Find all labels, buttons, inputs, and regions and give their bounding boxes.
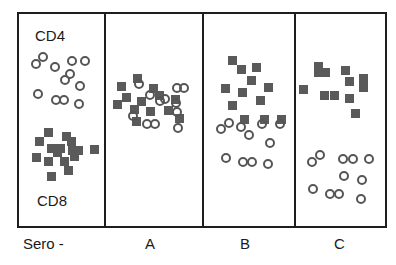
- cd8-cell-square-icon: [47, 172, 56, 181]
- cd8-cell-square-icon: [53, 148, 62, 157]
- cd8-cell-square-icon: [60, 157, 69, 166]
- cd4-cell-circle-icon: [357, 175, 367, 185]
- cd8-cell-square-icon: [264, 83, 273, 92]
- cd4-cell-circle-icon: [265, 138, 275, 148]
- cd4-cell-circle-icon: [308, 184, 318, 194]
- cd8-cell-square-icon: [351, 109, 360, 118]
- cd4-cell-circle-icon: [221, 153, 231, 163]
- cd4-cell-circle-icon: [356, 194, 366, 204]
- cd4-cell-circle-icon: [275, 119, 285, 129]
- cd4-cell-circle-icon: [38, 52, 48, 62]
- cd4-cell-circle-icon: [172, 107, 182, 117]
- cd8-cell-square-icon: [32, 153, 41, 162]
- cd8-cell-square-icon: [345, 94, 354, 103]
- cd4-cell-circle-icon: [65, 69, 75, 79]
- cd8-cell-square-icon: [330, 91, 339, 100]
- cd8-cell-square-icon: [237, 65, 246, 74]
- cd8-cell-square-icon: [146, 107, 155, 116]
- cd8-cell-square-icon: [117, 82, 126, 91]
- cd4-cell-circle-icon: [160, 94, 170, 104]
- cd4-cell-circle-icon: [145, 90, 155, 100]
- cd8-cell-square-icon: [221, 84, 230, 93]
- cd4-cell-circle-icon: [80, 56, 90, 66]
- cell-markers: [0, 0, 396, 265]
- column-label-sero-neg: Sero -: [23, 236, 64, 251]
- cd8-cell-square-icon: [228, 56, 237, 65]
- cd4-cell-circle-icon: [173, 123, 183, 133]
- cd8-cell-square-icon: [341, 66, 350, 75]
- cd4-cell-circle-icon: [364, 154, 374, 164]
- cd4-cell-circle-icon: [179, 83, 189, 93]
- column-label-a: A: [145, 236, 155, 251]
- cd4-cell-circle-icon: [50, 62, 60, 72]
- cd8-cell-square-icon: [359, 74, 368, 83]
- cd8-cell-square-icon: [90, 145, 99, 154]
- cd8-cell-square-icon: [299, 85, 308, 94]
- cd8-cell-square-icon: [67, 137, 76, 146]
- cd8-cell-square-icon: [113, 100, 122, 109]
- cd4-cell-circle-icon: [247, 157, 257, 167]
- cd4-cell-circle-icon: [334, 189, 344, 199]
- cd4-cell-circle-icon: [59, 95, 69, 105]
- cd8-cell-square-icon: [35, 137, 44, 146]
- cd8-cell-square-icon: [256, 96, 265, 105]
- cd4-cell-circle-icon: [150, 119, 160, 129]
- cd8-cell-square-icon: [321, 68, 330, 77]
- cd4-cell-circle-icon: [74, 99, 84, 109]
- cd8-cell-square-icon: [252, 63, 261, 72]
- cd4-cell-circle-icon: [134, 79, 144, 89]
- cd4-cell-circle-icon: [75, 81, 85, 91]
- cd4-cell-circle-icon: [348, 154, 358, 164]
- cd4-cell-circle-icon: [33, 89, 43, 99]
- cd8-cell-square-icon: [44, 157, 53, 166]
- cd4-cell-circle-icon: [257, 119, 267, 129]
- cd8-cell-square-icon: [122, 93, 131, 102]
- cd4-cell-circle-icon: [128, 111, 138, 121]
- cd8-cell-square-icon: [228, 101, 237, 110]
- cd4-cell-circle-icon: [244, 130, 254, 140]
- cd4-cell-circle-icon: [339, 171, 349, 181]
- cd8-cell-square-icon: [70, 152, 79, 161]
- cd4-cell-circle-icon: [216, 124, 226, 134]
- cd8-cell-square-icon: [238, 88, 247, 97]
- cd8-cell-square-icon: [359, 83, 368, 92]
- cd4-cell-circle-icon: [315, 150, 325, 160]
- cd8-cell-square-icon: [64, 166, 73, 175]
- column-label-c: C: [334, 236, 345, 251]
- cd4-cell-circle-icon: [67, 56, 77, 66]
- cd4-cell-circle-icon: [263, 159, 273, 169]
- cd8-cell-square-icon: [345, 77, 354, 86]
- cd8-cell-square-icon: [247, 76, 256, 85]
- cd4-cell-circle-icon: [338, 154, 348, 164]
- column-label-b: B: [240, 236, 250, 251]
- cd8-cell-square-icon: [320, 91, 329, 100]
- cd8-cell-square-icon: [44, 128, 53, 137]
